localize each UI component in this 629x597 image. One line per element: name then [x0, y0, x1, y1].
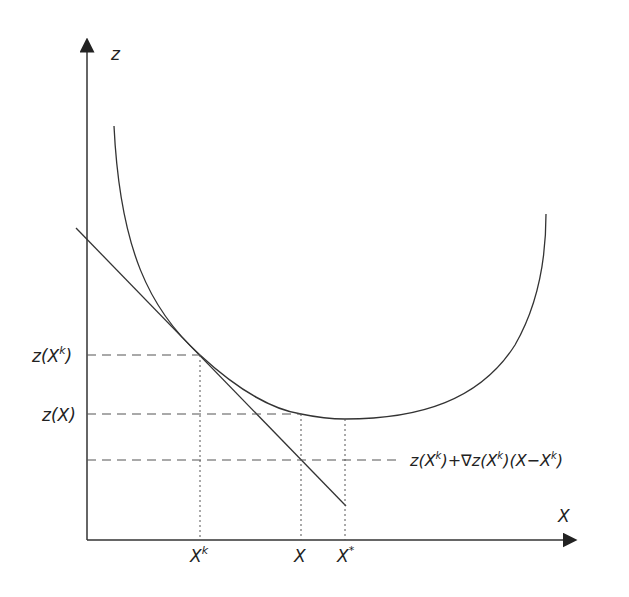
label-z-x: z(X): [41, 405, 76, 425]
label-x: X: [293, 546, 306, 566]
x-axis-label: X: [557, 506, 570, 526]
label-z-xk: z(Xk): [31, 344, 72, 366]
y-axis-label: z: [110, 44, 121, 64]
tangent-line: [76, 228, 346, 506]
convex-function-curve: [114, 126, 546, 419]
label-xstar: X*: [336, 544, 355, 566]
diagram-canvas: z X z(Xk) z(X) Xk X X* z(Xk)+∇z(Xk)(X−Xk…: [0, 0, 629, 597]
label-xk: Xk: [189, 544, 209, 566]
label-tangent-expression: z(Xk)+∇z(Xk)(X−Xk): [409, 450, 563, 470]
